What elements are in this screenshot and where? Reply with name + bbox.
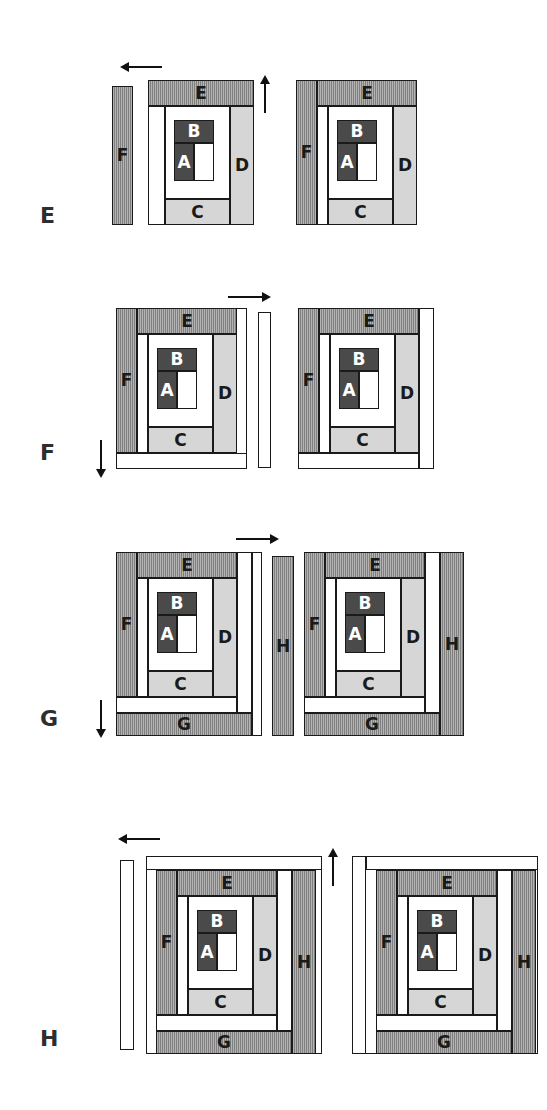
patch-g-strip-bottom-label [377,1016,496,1030]
patch-c-label: C [337,672,400,696]
patch-gap-left-label [178,897,187,1014]
arrow-head [260,75,270,84]
patch-b: B [174,120,214,143]
patch-gap-left-label [320,335,329,452]
patch-a-label: A [158,372,176,408]
patch-c-label: C [189,990,252,1014]
patch-b: B [157,592,197,615]
patch-c: C [148,671,213,697]
patch-g-strip-right [277,870,292,1031]
patch-a-label: A [338,144,356,180]
patch-gap-left [137,578,148,697]
block-before-h: FEDCBAG [116,552,262,736]
patch-gap-left [137,334,148,453]
arrow-shaft [100,700,102,730]
patch-g: G [116,713,252,736]
patch-c: C [165,199,230,225]
patch-gap-left-label [149,107,164,224]
patch-e-label: E [149,81,253,105]
patch-f-label: F [299,309,318,452]
arrow-head [96,469,106,478]
patch-center [177,371,197,409]
block-after-i: FEDCBAGH [352,856,538,1054]
patch-center [357,143,377,181]
patch-e-label: E [318,81,416,105]
patch-i-strip-left [352,856,366,1054]
patch-center-label [178,616,196,652]
loose-strip-g [258,312,271,468]
patch-g-label: G [377,1032,511,1053]
patch-e: E [325,552,425,578]
patch-d-label: D [254,897,276,1014]
patch-center [217,933,237,971]
patch-c: C [408,989,473,1015]
patch-g-strip-bottom [156,1015,277,1031]
row-label-e: E [40,205,55,227]
loose-strip-f: F [112,86,133,225]
patch-e-label: E [138,309,236,333]
patch-d: D [401,578,425,697]
patch-h: H [440,552,464,736]
patch-h-label: H [293,871,315,1053]
patch-d: D [230,106,254,225]
patch-c-label: C [166,200,229,224]
patch-d-label: D [214,335,236,452]
patch-center-label [358,144,376,180]
patch-f: F [116,308,137,453]
patch-g-label: G [117,714,251,735]
patch-f-label: F [117,553,136,696]
patch-e-label: E [326,553,424,577]
patch-a-label: A [175,144,193,180]
patch-f: F [304,552,325,697]
patch-d-label: D [474,897,496,1014]
patch-center-label [195,144,213,180]
patch-f-label: F [117,309,136,452]
arrow-shaft [264,83,266,113]
patch-h: H [512,870,536,1054]
arrow-head [262,292,271,302]
patch-center [194,143,214,181]
patch-d-label: D [394,107,416,224]
patch-g: G [156,1031,292,1054]
arrow-shaft [128,66,162,68]
patch-c-label: C [149,428,212,452]
loose-strip-f-label: F [113,87,132,224]
patch-top-strip [366,856,538,870]
patch-d-label: D [231,107,253,224]
arrow-left-strip-i-icon [118,834,161,844]
patch-gap-left [177,896,188,1015]
patch-gap-left-label [138,579,147,696]
diagram-canvas: EFEDCBAFEDCBAFFEDCBAFEDCBAGHFEDCBAGFEDCB… [0,0,547,1110]
patch-g-strip-right-label [420,309,433,468]
patch-b: B [339,348,379,371]
arrow-shaft [100,440,102,470]
arrow-shaft [126,838,160,840]
patch-gap-left [148,106,165,225]
patch-g-strip-right-label [426,553,439,712]
patch-g: G [376,1031,512,1054]
patch-f: F [116,552,137,697]
patch-a: A [337,143,357,181]
patch-h-label: H [513,871,535,1053]
arrow-right-strip-g-icon [228,292,271,302]
patch-a-label: A [340,372,358,408]
patch-f: F [156,870,177,1015]
patch-center [437,933,457,971]
patch-f: F [376,870,397,1015]
patch-d-label: D [396,335,418,452]
patch-f: F [298,308,319,453]
patch-a: A [174,143,194,181]
patch-gap-left-label [318,107,327,224]
patch-g-strip-right-label [498,871,511,1030]
patch-c-label: C [331,428,394,452]
patch-d-label: D [402,579,424,696]
loose-strip-h-label: H [273,557,293,735]
arrow-right-strip-h-icon [236,534,279,544]
patch-center-label [366,616,384,652]
arrow-down-block-f-icon [96,440,106,478]
patch-gap-left-label [326,579,335,696]
arrow-shaft [228,296,262,298]
arrow-down-block-g-icon [96,700,106,738]
patch-g: G [304,713,440,736]
patch-d: D [393,106,417,225]
